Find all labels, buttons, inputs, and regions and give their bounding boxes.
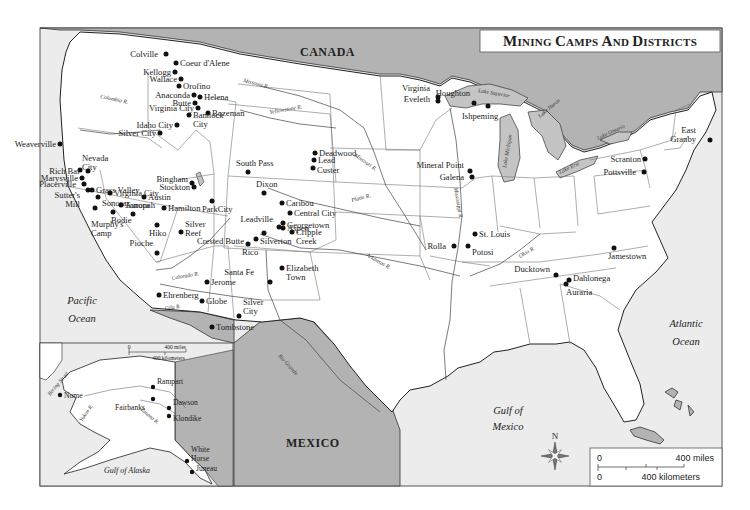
camp-silverton: Silverton xyxy=(254,236,293,246)
camp-label: Weaverville xyxy=(15,139,56,149)
camp-marker xyxy=(210,199,215,204)
camp-marker xyxy=(177,84,182,89)
camp-label: Rico xyxy=(242,247,258,257)
camp-label: ParkCity xyxy=(202,204,233,214)
camp-label: Klondike xyxy=(173,414,202,423)
camp-marker xyxy=(486,104,491,109)
camp-marker xyxy=(262,191,267,196)
camp-marker xyxy=(192,93,197,98)
camp-marker xyxy=(86,169,91,174)
camp-marker xyxy=(642,170,647,175)
inset-scale-zero: 0 xyxy=(128,344,131,350)
camp-marker xyxy=(200,299,205,304)
camp-marker xyxy=(612,246,617,251)
camp-marker xyxy=(108,191,113,196)
camp-marker xyxy=(210,325,215,330)
camp-klondike: Klondike xyxy=(167,414,202,423)
camp-marker xyxy=(96,195,101,200)
camp-hamilton: Hamilton xyxy=(162,203,202,213)
camp-marker xyxy=(246,170,251,175)
camp-label: Auraria xyxy=(566,287,592,297)
camp-marker xyxy=(131,212,136,217)
camp-central-city: Central City xyxy=(288,208,337,218)
camp-marker xyxy=(190,470,194,474)
camp-marker xyxy=(155,223,160,228)
camp-marker xyxy=(708,138,713,143)
camp-marker xyxy=(82,182,87,187)
camp-marker xyxy=(151,397,155,401)
label-canada: CANADA xyxy=(300,45,355,59)
camp-marker xyxy=(466,244,471,249)
camp-label: Coeur d'Alene xyxy=(180,58,230,68)
inset-scale-miles: 400 miles xyxy=(164,344,186,350)
camp-label: Silver City xyxy=(119,128,157,138)
mining-camps-map: 0 400 miles 400 kilometers MINING CAMPS … xyxy=(0,0,750,510)
label-mexico: MEXICO xyxy=(286,436,340,450)
camp-label: Lead xyxy=(318,155,336,165)
camp-marker xyxy=(119,203,124,208)
camp-marker xyxy=(179,230,184,235)
camp-marker xyxy=(262,231,267,236)
camp-label: Crested Butte xyxy=(197,236,244,246)
camp-marker xyxy=(470,175,475,180)
camp-marker xyxy=(175,123,180,128)
camp-weaverville: Weaverville xyxy=(15,139,63,149)
camp-marker xyxy=(564,282,569,287)
camp-label: Custer xyxy=(317,165,340,175)
camp-label: Globe xyxy=(206,296,227,306)
camp-label: Scranton xyxy=(610,154,641,164)
camp-marker xyxy=(290,230,295,235)
camp-marker xyxy=(164,52,169,57)
camp-label: Hamilton xyxy=(168,203,201,213)
camp-label: South Pass xyxy=(236,158,274,168)
camp-marker xyxy=(268,280,273,285)
camp-label: Colville xyxy=(130,49,158,59)
camp-marker xyxy=(281,221,286,226)
camp-marker xyxy=(452,244,457,249)
camp-marker xyxy=(58,142,63,147)
camp-label: Helena xyxy=(204,92,229,102)
camp-marker xyxy=(472,101,477,106)
camp-st-louis: St. Louis xyxy=(473,229,511,239)
camp-label: WhiteHorse xyxy=(191,445,210,463)
label-pacific-2: Ocean xyxy=(68,313,95,324)
camp-marker xyxy=(288,211,293,216)
inset-scale-kilometers: 400 kilometers xyxy=(152,355,185,361)
camp-marker xyxy=(237,314,242,319)
camp-label: Wallace xyxy=(150,74,178,84)
camp-label: Placerville xyxy=(39,179,76,189)
camp-label: Santa Fe xyxy=(224,267,254,277)
camp-silver-city-id: Silver City xyxy=(119,128,163,138)
label-atlantic-1: Atlantic xyxy=(668,318,703,329)
camp-label: Rolla xyxy=(427,241,446,251)
camp-marker xyxy=(198,95,203,100)
camp-marker xyxy=(158,131,163,136)
camp-marker xyxy=(554,273,559,278)
camp-label: Dixon xyxy=(256,179,278,189)
camp-marker xyxy=(313,151,318,156)
camp-marker xyxy=(281,226,286,231)
camp-marker xyxy=(468,169,473,174)
camp-label: Nome xyxy=(64,391,83,400)
camp-marker xyxy=(311,166,316,171)
camp-label: Galena xyxy=(440,172,465,182)
camp-label: Virginia xyxy=(402,83,430,93)
scale-miles-label: 400 miles xyxy=(675,453,714,463)
camp-marker xyxy=(280,266,285,271)
label-gulf-mexico-1: Gulf of xyxy=(493,405,525,416)
camp-marker xyxy=(643,157,648,162)
camp-label: Tonopah xyxy=(125,200,156,210)
camp-marker xyxy=(280,201,285,206)
camp-marker xyxy=(187,113,192,118)
label-atlantic-2: Ocean xyxy=(672,336,699,347)
scale-zero-miles: 0 xyxy=(597,453,602,463)
camp-marker xyxy=(80,176,85,181)
compass-north-label: N xyxy=(552,431,559,441)
label-gulf-mexico-2: Mexico xyxy=(492,421,524,432)
camp-marker xyxy=(473,232,478,237)
camp-marker xyxy=(436,99,441,104)
camp-marker xyxy=(167,414,171,418)
label-gulf-alaska: Gulf of Alaska xyxy=(104,466,150,475)
camp-marker xyxy=(192,185,197,190)
camp-label: Ishpeming xyxy=(462,111,499,121)
